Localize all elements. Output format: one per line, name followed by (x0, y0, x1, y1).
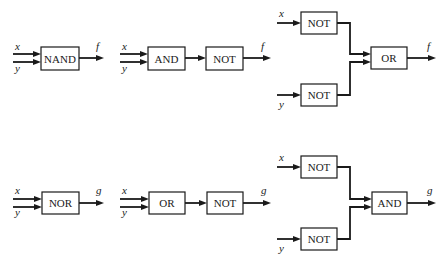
not-gate-label: NOT (308, 17, 331, 29)
arrowhead-icon (263, 200, 271, 206)
input-x-label: x (278, 151, 284, 163)
input-x-label: x (121, 40, 127, 52)
not-not-or-circuit: x NOT y NOT OR f (277, 7, 436, 110)
arrowhead-icon (34, 196, 42, 202)
logic-diagram-svg: x y NAND f x y AND NOT f x NOT y (0, 0, 446, 267)
or-not-circuit: x y OR NOT g (120, 184, 271, 218)
arrowhead-icon (198, 55, 206, 61)
arrowhead-icon (293, 20, 301, 26)
arrowhead-icon (364, 196, 372, 202)
arrowhead-icon (34, 204, 42, 210)
connect-wire-bottom (337, 62, 366, 95)
not-not-and-circuit: x NOT y NOT AND g (277, 151, 436, 254)
input-x-label: x (14, 184, 20, 196)
nand-gate-label: NAND (44, 53, 76, 65)
arrowhead-icon (364, 204, 372, 210)
arrowhead-icon (363, 51, 371, 57)
arrowhead-icon (428, 200, 436, 206)
arrowhead-icon (293, 236, 301, 242)
arrowhead-icon (293, 164, 301, 170)
input-y-label: y (121, 62, 127, 74)
arrowhead-icon (199, 200, 207, 206)
input-x-label: x (14, 40, 20, 52)
output-g-label: g (96, 184, 102, 196)
input-y-label: y (14, 62, 20, 74)
not-gate-label: NOT (308, 161, 331, 173)
arrowhead-icon (33, 51, 41, 57)
and-not-circuit: x y AND NOT f (120, 40, 271, 74)
and-gate-label: AND (378, 197, 402, 209)
or-gate-label: OR (381, 52, 397, 64)
or-gate-label: OR (159, 197, 175, 209)
input-x-label: x (121, 184, 127, 196)
arrowhead-icon (33, 59, 41, 65)
arrowhead-icon (140, 51, 148, 57)
not-gate-label: NOT (308, 233, 331, 245)
input-y-label: y (278, 242, 284, 254)
output-g-label: g (427, 184, 433, 196)
nor-gate-label: NOR (49, 197, 73, 209)
arrowhead-icon (293, 92, 301, 98)
output-g-label: g (261, 184, 267, 196)
arrowhead-icon (140, 59, 148, 65)
and-gate-label: AND (155, 53, 179, 65)
logic-diagram-canvas: x y NAND f x y AND NOT f x NOT y (0, 0, 446, 267)
arrowhead-icon (96, 55, 104, 61)
nor-circuit: x y NOR g (13, 184, 104, 218)
not-gate-label: NOT (213, 53, 236, 65)
arrowhead-icon (428, 55, 436, 61)
not-gate-label: NOT (214, 197, 237, 209)
input-y-label: y (278, 98, 284, 110)
connect-wire-bottom (337, 207, 367, 239)
arrowhead-icon (141, 196, 149, 202)
output-f-label: f (96, 40, 101, 52)
arrowhead-icon (96, 200, 104, 206)
arrowhead-icon (141, 204, 149, 210)
output-f-label: f (427, 40, 432, 52)
not-gate-label: NOT (308, 89, 331, 101)
connect-wire-top (337, 23, 366, 54)
input-x-label: x (278, 7, 284, 19)
nand-circuit: x y NAND f (13, 40, 104, 74)
connect-wire-top (337, 167, 367, 199)
arrowhead-icon (263, 55, 271, 61)
arrowhead-icon (363, 59, 371, 65)
output-f-label: f (261, 40, 266, 52)
